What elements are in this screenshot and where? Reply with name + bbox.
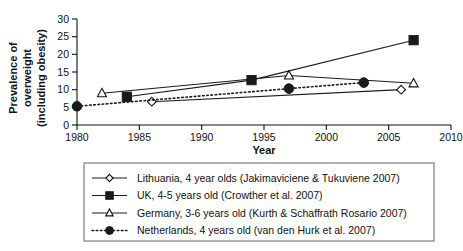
marker-circle-filled [72, 101, 82, 111]
x-tick-label: 2010 [439, 131, 463, 143]
y-tick-label: 10 [57, 83, 69, 95]
y-axis-title-line-2: overweight [21, 49, 33, 107]
y-tick-label: 25 [57, 30, 69, 42]
y-tick-label: 30 [57, 13, 69, 25]
x-tick-label: 2005 [377, 131, 401, 143]
prevalence-overweight-line-chart: Prevalence of overweight (including obes… [0, 0, 463, 251]
y-tick-label: 5 [63, 101, 69, 113]
x-axis-title: Year [252, 144, 276, 156]
y-tick-label: 15 [57, 66, 69, 78]
legend-item-label: Lithuania, 4 year olds (Jakimaviciene & … [137, 172, 400, 184]
legend-item-label: UK, 4-5 years old (Crowther et al. 2007) [137, 189, 323, 201]
x-tick-label: 1985 [128, 131, 152, 143]
x-tick-label: 1995 [252, 131, 276, 143]
y-axis-title-line-1: Prevalence of [7, 42, 19, 114]
y-axis-ticks: 051015202530 [57, 13, 77, 131]
marker-square-filled [106, 192, 114, 200]
legend-item-label: Germany, 3-6 years old (Kurth & Schaffra… [137, 207, 407, 219]
y-tick-label: 20 [57, 48, 69, 60]
y-axis-title-line-3: (including obesity) [35, 29, 47, 127]
marker-circle-filled [106, 227, 114, 235]
series-3 [72, 78, 368, 111]
x-tick-label: 1980 [65, 131, 89, 143]
chart-figure: Prevalence of overweight (including obes… [0, 0, 463, 251]
marker-diamond-open [397, 85, 406, 94]
marker-circle-filled [284, 84, 294, 94]
marker-square-filled [409, 36, 418, 45]
series-2 [97, 71, 418, 97]
legend-item-label: Netherlands, 4 years old (van den Hurk e… [137, 224, 375, 236]
marker-diamond-open [147, 97, 156, 106]
legend-item-2[interactable]: Germany, 3-6 years old (Kurth & Schaffra… [92, 207, 407, 219]
y-axis-title: Prevalence of overweight (including obes… [7, 29, 47, 127]
data-series-layer [72, 36, 418, 111]
x-axis-ticks: 1980198519901995200020052010 [65, 125, 463, 143]
x-tick-label: 2000 [315, 131, 339, 143]
y-tick-label: 0 [63, 119, 69, 131]
marker-square-filled [122, 92, 131, 101]
x-tick-label: 1990 [190, 131, 214, 143]
legend-item-0[interactable]: Lithuania, 4 year olds (Jakimaviciene & … [92, 172, 400, 184]
marker-circle-filled [359, 78, 369, 88]
marker-square-filled [247, 76, 256, 85]
